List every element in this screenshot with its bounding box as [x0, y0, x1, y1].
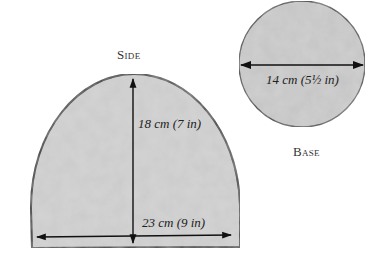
side-label: Side: [117, 47, 140, 63]
side-height-label: 18 cm (7 in): [138, 116, 201, 132]
side-width-label: 23 cm (9 in): [142, 215, 205, 231]
base-label: Base: [293, 144, 320, 160]
base-diameter-label: 14 cm (5½ in): [266, 72, 339, 88]
side-piece-shape: [31, 74, 240, 248]
base-piece-shape: [239, 1, 365, 127]
